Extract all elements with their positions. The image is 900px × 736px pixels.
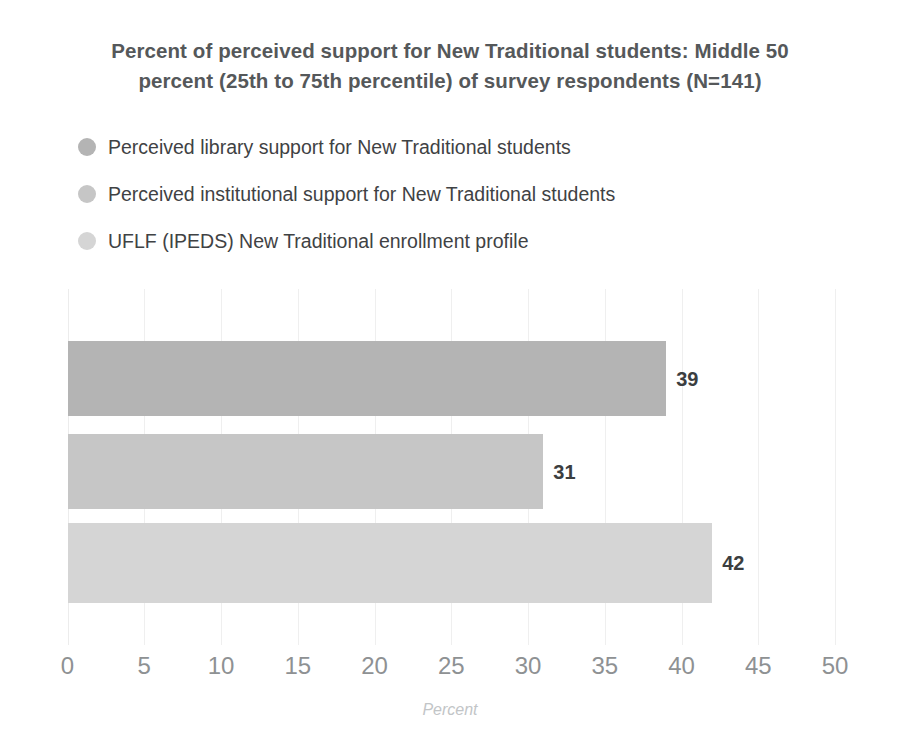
bar-value-label-1: 31 (553, 462, 575, 482)
x-tick-40: 40 (668, 652, 695, 680)
gridline-50 (835, 289, 836, 645)
bar-1[interactable] (68, 434, 544, 509)
x-tick-20: 20 (361, 652, 388, 680)
x-tick-15: 15 (284, 652, 311, 680)
x-axis-label: Percent (0, 700, 900, 720)
x-tick-5: 5 (138, 652, 151, 680)
x-tick-50: 50 (822, 652, 849, 680)
bar-value-label-0: 39 (676, 369, 698, 389)
x-tick-35: 35 (591, 652, 618, 680)
x-tick-45: 45 (745, 652, 772, 680)
x-tick-0: 0 (61, 652, 74, 680)
chart-container: Percent of perceived support for New Tra… (0, 0, 900, 736)
x-tick-10: 10 (208, 652, 235, 680)
plot-area: 393142 05101520253035404550 Percent (0, 0, 900, 736)
x-tick-25: 25 (438, 652, 465, 680)
bar-value-label-2: 42 (722, 553, 744, 573)
x-tick-30: 30 (515, 652, 542, 680)
bar-0[interactable] (68, 341, 667, 416)
gridline-45 (758, 289, 759, 645)
bar-2[interactable] (68, 523, 713, 603)
